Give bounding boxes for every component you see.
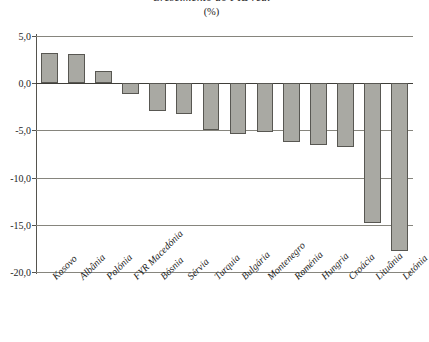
- bar: [41, 53, 58, 83]
- bar: [68, 54, 85, 83]
- y-tick-mark: [32, 225, 36, 226]
- bar: [149, 83, 166, 110]
- x-tick-label: Albânia: [77, 252, 107, 282]
- chart-subtitle-units: (%): [0, 6, 423, 17]
- bar: [364, 83, 381, 223]
- x-tick-label: Croácia: [346, 251, 377, 282]
- chart-title: Crescimento do PIB real: [0, 0, 423, 3]
- bar: [176, 83, 193, 114]
- x-tick-label: Lituânia: [373, 250, 405, 282]
- bar: [230, 83, 247, 134]
- y-tick-mark: [32, 272, 36, 273]
- bar: [257, 83, 274, 132]
- x-tick-label: Kosovo: [50, 253, 79, 282]
- bar: [203, 83, 220, 130]
- y-tick-label: 0,0: [19, 78, 32, 89]
- bar: [283, 83, 300, 142]
- y-tick-label: -15,0: [10, 219, 31, 230]
- x-tick-label: Polónia: [104, 252, 134, 282]
- gridline-0: 0,0: [36, 83, 413, 84]
- bar: [95, 71, 112, 83]
- y-tick-mark: [32, 178, 36, 179]
- y-tick-mark: [32, 36, 36, 37]
- gridline--5: -5,0: [36, 130, 413, 131]
- y-tick-label: -10,0: [10, 172, 31, 183]
- x-tick-label: Sérvia: [185, 256, 211, 282]
- x-tick-label: Turquia: [212, 252, 242, 282]
- bar: [337, 83, 354, 147]
- x-tick-label: Bulgária: [239, 249, 272, 282]
- bar: [122, 83, 139, 93]
- y-tick-label: -20,0: [10, 267, 31, 278]
- y-tick-label: -5,0: [15, 125, 31, 136]
- bar: [310, 83, 327, 144]
- y-tick-label: 5,0: [19, 31, 32, 42]
- y-tick-mark: [32, 130, 36, 131]
- gridline-5: 5,0: [36, 36, 413, 37]
- gridline--10: -10,0: [36, 178, 413, 179]
- bar: [391, 83, 408, 251]
- y-tick-mark: [32, 83, 36, 84]
- plot-area: 5,00,0-5,0-10,0-15,0-20,0 KosovoAlbâniaP…: [36, 36, 413, 272]
- gridline--15: -15,0: [36, 225, 413, 226]
